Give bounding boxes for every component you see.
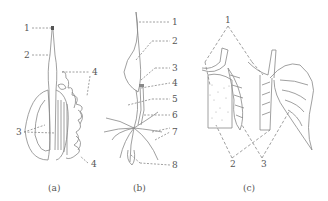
caption-b: (b)	[133, 184, 146, 193]
caption-c: (c)	[243, 184, 255, 193]
label-a-4-top: 4	[92, 68, 98, 77]
label-b-4: 4	[172, 79, 178, 88]
label-b-6: 6	[172, 111, 178, 120]
label-a-2: 2	[24, 51, 30, 60]
label-b-8: 8	[172, 161, 178, 170]
label-b-3: 3	[172, 64, 178, 73]
label-b-7: 7	[172, 128, 178, 137]
panel-c-drawing	[202, 26, 314, 158]
label-c-1: 1	[225, 16, 231, 25]
label-b-1: 1	[172, 18, 178, 27]
label-b-2: 2	[172, 37, 178, 46]
label-b-5: 5	[172, 95, 178, 104]
label-a-3: 3	[16, 128, 22, 137]
label-c-2: 2	[230, 160, 236, 169]
panel-b-drawing	[104, 12, 170, 165]
label-a-1: 1	[24, 24, 30, 33]
caption-a: (a)	[48, 184, 60, 193]
label-a-4-bottom: 4	[91, 160, 97, 169]
diagram-canvas	[0, 0, 328, 201]
panel-a-drawing	[24, 26, 90, 163]
label-c-3: 3	[261, 160, 267, 169]
